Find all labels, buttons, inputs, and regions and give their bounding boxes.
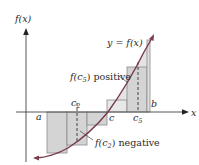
rect-6	[147, 40, 150, 112]
curve-label: y = f(x)	[106, 37, 143, 48]
point-c-label: c	[109, 112, 115, 123]
curve-start-arrow-icon	[33, 156, 39, 161]
positive-annotation: f(c5) positive	[69, 71, 131, 84]
y-axis-label: f(x)	[14, 13, 32, 24]
point-a-label: a	[36, 111, 42, 122]
point-b-label: b	[151, 98, 157, 109]
rect-1	[47, 112, 67, 153]
y-axis-arrow-icon	[23, 28, 29, 35]
point-c2-label: c2	[71, 97, 80, 110]
x-axis-label: x	[191, 107, 197, 118]
point-c5-label: c5	[133, 112, 142, 125]
diagram-svg: f(x) x y = f(x) a b c c2 c5 f(c5) positi…	[0, 0, 199, 165]
negative-annotation: f(c2) negative	[94, 137, 160, 150]
x-axis-arrow-icon	[182, 109, 189, 115]
riemann-sum-figure: f(x) x y = f(x) a b c c2 c5 f(c5) positi…	[0, 0, 199, 165]
rect-3	[87, 112, 107, 125]
